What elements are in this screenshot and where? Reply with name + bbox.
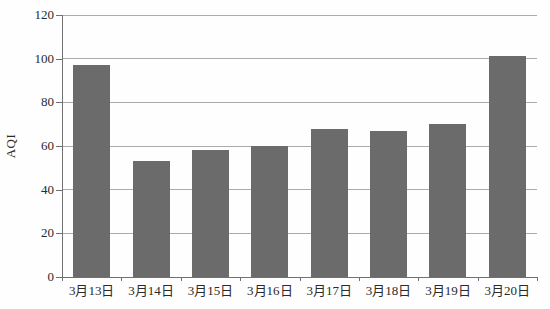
bar-3月17日 (311, 129, 348, 277)
x-tick-mark-1 (121, 277, 122, 281)
x-label-3月18日: 3月18日 (359, 283, 418, 299)
x-tick-mark-0 (62, 277, 63, 281)
y-tick-mark-120 (56, 15, 62, 16)
y-axis-title: AQI (3, 134, 19, 159)
x-tick-mark-5 (359, 277, 360, 281)
x-label-3月13日: 3月13日 (62, 283, 121, 299)
y-tick-label-120: 120 (20, 8, 54, 22)
x-tick-mark-2 (181, 277, 182, 281)
bar-3月16日 (251, 146, 288, 277)
bar-3月13日 (73, 65, 110, 277)
bar-3月18日 (370, 131, 407, 277)
plot-area (62, 15, 537, 277)
x-tick-mark-7 (478, 277, 479, 281)
y-tick-mark-20 (56, 233, 62, 234)
y-tick-mark-80 (56, 102, 62, 103)
x-tick-mark-8 (537, 277, 538, 281)
x-label-3月20日: 3月20日 (478, 283, 537, 299)
y-tick-label-40: 40 (20, 183, 54, 197)
y-tick-label-0: 0 (20, 270, 54, 284)
x-tick-mark-3 (240, 277, 241, 281)
bar-3月19日 (429, 124, 466, 277)
x-label-3月17日: 3月17日 (300, 283, 359, 299)
x-label-3月15日: 3月15日 (181, 283, 240, 299)
y-tick-mark-40 (56, 190, 62, 191)
bar-3月20日 (489, 56, 526, 277)
gridline-80 (62, 102, 537, 103)
x-tick-mark-4 (300, 277, 301, 281)
x-tick-mark-6 (418, 277, 419, 281)
y-tick-label-60: 60 (20, 139, 54, 153)
y-tick-label-80: 80 (20, 95, 54, 109)
aqi-bar-chart: AQI 0204060801001203月13日3月14日3月15日3月16日3… (0, 0, 550, 309)
y-tick-label-20: 20 (20, 226, 54, 240)
y-tick-mark-60 (56, 146, 62, 147)
x-label-3月19日: 3月19日 (418, 283, 477, 299)
gridline-100 (62, 58, 537, 59)
y-tick-mark-100 (56, 59, 62, 60)
bar-3月14日 (133, 161, 170, 277)
gridline-120 (62, 15, 537, 16)
y-tick-label-100: 100 (20, 52, 54, 66)
x-label-3月14日: 3月14日 (121, 283, 180, 299)
y-axis-line (62, 15, 63, 278)
bar-3月15日 (192, 150, 229, 277)
x-label-3月16日: 3月16日 (240, 283, 299, 299)
